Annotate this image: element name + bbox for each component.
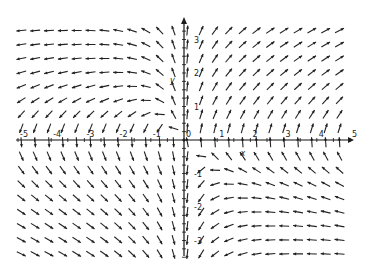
field-arrow bbox=[171, 26, 175, 35]
field-arrow bbox=[144, 137, 147, 147]
field-arrow bbox=[86, 98, 95, 102]
field-arrow bbox=[280, 182, 289, 186]
field-arrow bbox=[72, 71, 82, 74]
field-arrow bbox=[308, 83, 315, 90]
field-arrow bbox=[280, 55, 288, 61]
field-arrow bbox=[30, 43, 40, 46]
field-arrow bbox=[114, 237, 122, 243]
x-tick-label: 1 bbox=[219, 130, 224, 139]
field-arrow bbox=[186, 151, 189, 161]
field-arrow bbox=[128, 236, 135, 243]
field-arrow bbox=[323, 152, 328, 161]
field-arrow bbox=[335, 70, 343, 76]
field-arrow bbox=[86, 85, 96, 88]
field-arrow bbox=[143, 180, 148, 189]
field-arrow bbox=[143, 208, 149, 216]
field-arrow bbox=[102, 152, 106, 161]
x-axis-label: x bbox=[239, 149, 245, 158]
field-arrow bbox=[48, 137, 51, 147]
field-arrow bbox=[252, 225, 262, 228]
field-arrow bbox=[102, 166, 107, 174]
y-tick-label: -3 bbox=[194, 237, 202, 246]
field-arrow bbox=[113, 99, 122, 103]
field-arrow bbox=[75, 124, 79, 133]
field-arrow bbox=[265, 253, 275, 256]
field-arrow bbox=[127, 57, 137, 60]
field-arrow bbox=[155, 98, 164, 103]
field-arrow bbox=[46, 111, 53, 118]
field-arrow bbox=[293, 196, 303, 199]
field-arrow bbox=[293, 238, 303, 241]
field-arrow bbox=[171, 96, 175, 105]
field-arrow bbox=[172, 193, 175, 203]
field-arrow bbox=[127, 43, 137, 46]
field-arrow bbox=[279, 196, 289, 199]
field-arrow bbox=[73, 195, 80, 202]
field-arrow bbox=[310, 124, 314, 134]
field-arrow bbox=[252, 210, 262, 213]
field-arrow bbox=[17, 71, 27, 74]
field-arrow bbox=[308, 69, 316, 75]
field-arrow bbox=[186, 193, 189, 203]
y-tick-label: 2 bbox=[194, 69, 199, 78]
field-arrow bbox=[252, 253, 262, 256]
field-arrow bbox=[141, 28, 150, 33]
y-tick-label: -1 bbox=[194, 170, 202, 179]
field-arrow bbox=[157, 250, 162, 259]
field-arrow bbox=[226, 55, 233, 63]
field-arrow bbox=[58, 43, 68, 46]
field-arrow bbox=[45, 181, 52, 188]
field-arrow bbox=[130, 166, 135, 175]
x-tick-label: 4 bbox=[319, 130, 324, 139]
field-arrow bbox=[239, 69, 246, 76]
field-arrow bbox=[199, 68, 203, 77]
x-tick-label: -2 bbox=[120, 130, 128, 139]
field-arrow bbox=[296, 152, 301, 161]
x-tick-label: -3 bbox=[86, 130, 94, 139]
field-arrow bbox=[321, 196, 330, 200]
field-arrow bbox=[296, 137, 299, 147]
field-arrow bbox=[143, 250, 150, 258]
field-arrow bbox=[282, 152, 287, 161]
field-arrow bbox=[45, 195, 53, 201]
field-arrow bbox=[253, 83, 260, 90]
field-arrow bbox=[127, 85, 137, 88]
x-tick-label: -4 bbox=[53, 130, 61, 139]
field-arrow bbox=[172, 249, 175, 259]
field-arrow bbox=[322, 167, 330, 174]
field-arrow bbox=[172, 179, 175, 189]
field-arrow bbox=[18, 181, 25, 188]
field-arrow bbox=[44, 43, 54, 46]
field-arrow bbox=[31, 98, 39, 103]
field-arrow bbox=[18, 111, 25, 118]
field-arrow bbox=[44, 85, 53, 89]
field-arrow bbox=[44, 29, 54, 32]
field-arrow bbox=[86, 71, 96, 74]
field-arrow bbox=[60, 166, 66, 174]
field-arrow bbox=[227, 110, 231, 119]
field-arrow bbox=[72, 57, 82, 60]
field-arrow bbox=[224, 252, 233, 256]
field-arrow bbox=[335, 238, 345, 241]
field-arrow bbox=[58, 251, 67, 256]
field-arrow bbox=[307, 238, 317, 241]
field-arrow bbox=[171, 40, 175, 49]
field-arrow bbox=[214, 123, 217, 133]
field-arrow bbox=[87, 180, 94, 187]
field-arrow bbox=[254, 110, 259, 119]
field-arrow bbox=[31, 238, 40, 243]
field-arrow bbox=[210, 183, 220, 186]
field-arrow bbox=[141, 99, 151, 102]
field-arrow bbox=[99, 57, 109, 60]
y-axis-label: y bbox=[169, 76, 175, 85]
field-arrow bbox=[253, 69, 260, 76]
field-arrow bbox=[58, 71, 68, 74]
field-arrow bbox=[321, 182, 330, 187]
field-arrow bbox=[59, 111, 66, 118]
field-arrow bbox=[294, 28, 303, 33]
field-arrow bbox=[87, 111, 94, 118]
field-arrow bbox=[279, 252, 289, 255]
field-arrow bbox=[253, 96, 259, 104]
field-arrow bbox=[238, 225, 248, 228]
field-arrow bbox=[115, 194, 122, 201]
